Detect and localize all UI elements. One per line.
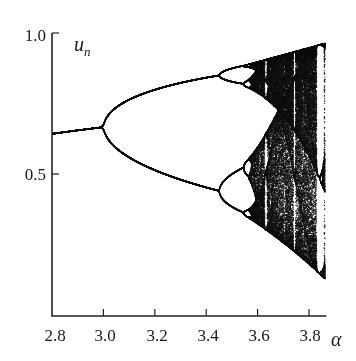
x-tick-label-3-0: 3.0 <box>94 327 115 344</box>
y-tick-label-0-5: 0.5 <box>4 166 46 183</box>
x-tick-label-3-8: 3.8 <box>299 327 320 344</box>
y-axis-title-sub: n <box>84 44 91 59</box>
x-tick-label-3-2: 3.2 <box>146 327 167 344</box>
x-axis-title: α <box>331 329 342 349</box>
x-tick-label-3-6: 3.6 <box>248 327 269 344</box>
bifurcation-plot <box>0 0 356 361</box>
y-tick-label-1-0: 1.0 <box>4 27 46 44</box>
x-tick-label-3-4: 3.4 <box>197 327 218 344</box>
x-tick-label-2-8: 2.8 <box>44 327 65 344</box>
y-axis-title-main: u <box>74 33 84 55</box>
y-axis-title: un <box>74 34 91 58</box>
